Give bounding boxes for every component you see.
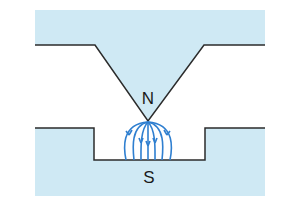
- field-lines: [125, 122, 172, 160]
- south-label: S: [143, 168, 154, 187]
- north-label: N: [142, 89, 154, 108]
- magnet-diagram: N S: [0, 0, 287, 210]
